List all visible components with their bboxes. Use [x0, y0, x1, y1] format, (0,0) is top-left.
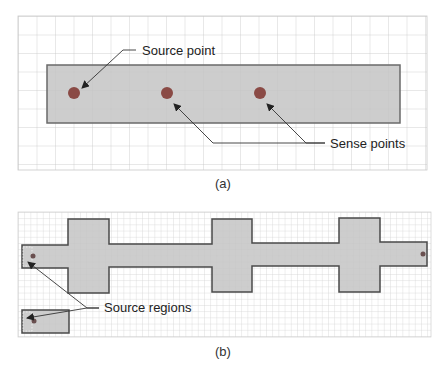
strip-a — [47, 65, 400, 123]
sense-points-label: Sense points — [330, 136, 406, 151]
panel-b: Source regions (b) — [18, 212, 431, 359]
source-regions-label: Source regions — [104, 300, 192, 315]
source-point-b-bottom — [32, 319, 37, 324]
source-point-b-left — [31, 254, 36, 259]
cross-shaped-strip — [22, 218, 427, 293]
source-point-b-right — [421, 252, 426, 257]
source-point — [68, 87, 80, 99]
caption-a: (a) — [215, 176, 231, 191]
sense-point-2 — [254, 87, 266, 99]
caption-b: (b) — [215, 344, 231, 359]
figure: Source point Sense points (a) Source reg… — [0, 0, 446, 369]
sense-point-1 — [161, 87, 173, 99]
source-point-label: Source point — [142, 43, 215, 58]
panel-a: Source point Sense points (a) — [18, 16, 427, 191]
separate-source-region — [22, 310, 69, 333]
